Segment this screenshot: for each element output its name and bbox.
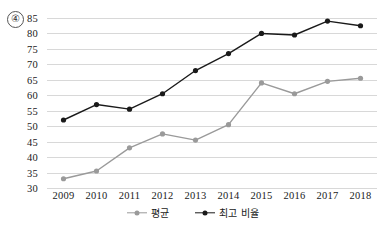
y-axis-tick-label: 30 xyxy=(27,183,38,194)
y-axis-tick-label: 35 xyxy=(27,167,38,178)
data-point xyxy=(226,122,231,127)
data-point xyxy=(127,107,132,112)
x-axis-tick-label: 2015 xyxy=(251,190,273,201)
series-line xyxy=(64,78,361,178)
x-axis-tick-label: 2010 xyxy=(86,190,108,201)
data-point xyxy=(358,23,363,28)
y-axis-tick-label: 85 xyxy=(27,13,38,24)
y-axis-tick-label: 75 xyxy=(27,43,38,54)
y-axis-tick-label: 80 xyxy=(27,28,38,39)
data-point xyxy=(193,137,198,142)
x-axis-tick-label: 2016 xyxy=(284,190,306,201)
legend-marker-icon xyxy=(127,208,147,218)
data-point xyxy=(61,117,66,122)
legend-label: 평균 xyxy=(151,205,169,220)
data-point xyxy=(259,80,264,85)
data-point xyxy=(325,18,330,23)
legend-item: 최고 비율 xyxy=(195,205,258,220)
data-point xyxy=(193,68,198,73)
data-point xyxy=(94,168,99,173)
x-axis-tick-label: 2017 xyxy=(317,190,339,201)
data-point xyxy=(325,79,330,84)
data-point xyxy=(292,91,297,96)
plot-area xyxy=(47,18,377,188)
x-axis-tick-label: 2011 xyxy=(119,190,140,201)
data-point xyxy=(160,91,165,96)
chart-legend: 평균최고 비율 xyxy=(0,205,386,220)
x-axis-tick-label: 2013 xyxy=(185,190,207,201)
y-axis-tick-label: 50 xyxy=(27,121,38,132)
line-series-layer xyxy=(47,18,377,188)
y-axis-tick-labels: 303540455055606570758085 xyxy=(0,18,43,188)
data-point xyxy=(61,176,66,181)
series-line xyxy=(64,21,361,120)
legend-item: 평균 xyxy=(127,205,169,220)
x-axis-tick-label: 2009 xyxy=(53,190,75,201)
legend-label: 최고 비율 xyxy=(219,205,258,220)
y-axis-tick-label: 65 xyxy=(27,74,38,85)
y-axis-tick-label: 45 xyxy=(27,136,38,147)
data-point xyxy=(358,76,363,81)
y-axis-tick-label: 60 xyxy=(27,90,38,101)
y-axis-tick-label: 55 xyxy=(27,105,38,116)
gridline xyxy=(47,188,377,189)
data-point xyxy=(226,51,231,56)
data-point xyxy=(160,131,165,136)
data-point xyxy=(94,102,99,107)
chart-figure: ④ 303540455055606570758085 2009201020112… xyxy=(0,0,386,231)
x-axis-tick-labels: 2009201020112012201320142015201620172018 xyxy=(47,190,377,206)
x-axis-tick-label: 2018 xyxy=(350,190,372,201)
x-axis-tick-label: 2012 xyxy=(152,190,174,201)
legend-marker-icon xyxy=(195,208,215,218)
data-point xyxy=(292,32,297,37)
y-axis-tick-label: 40 xyxy=(27,152,38,163)
data-point xyxy=(259,31,264,36)
y-axis-tick-label: 70 xyxy=(27,59,38,70)
data-point xyxy=(127,145,132,150)
x-axis-tick-label: 2014 xyxy=(218,190,240,201)
